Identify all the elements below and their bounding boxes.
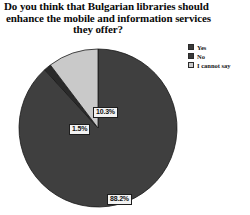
legend-item-cannot-say[interactable]: I cannot say	[188, 61, 248, 69]
data-label-no: 1.5%	[69, 124, 90, 135]
legend-label-no: No	[197, 53, 205, 60]
pie-svg	[18, 48, 178, 208]
pie-chart-screenshot: Do you think that Bulgarian libraries sh…	[0, 0, 250, 215]
legend-label-cannot-say: I cannot say	[197, 62, 231, 69]
chart-title-line-3: they offer?	[0, 24, 196, 36]
pie-plot-area: 10.3% 1.5% 88.2%	[18, 48, 178, 208]
legend-swatch-no-icon	[188, 53, 194, 59]
legend-swatch-cannot-say-icon	[188, 62, 194, 68]
chart-title: Do you think that Bulgarian libraries sh…	[0, 1, 196, 36]
legend-swatch-yes-icon	[188, 44, 194, 50]
pie-slice-group	[19, 49, 177, 207]
legend-label-yes: Yes	[197, 44, 206, 51]
chart-title-line-1: Do you think that Bulgarian libraries sh…	[0, 1, 196, 13]
legend-item-no[interactable]: No	[188, 52, 248, 60]
legend-item-yes[interactable]: Yes	[188, 43, 248, 51]
data-label-yes: 88.2%	[107, 194, 132, 205]
data-label-cannot-say: 10.3%	[93, 107, 118, 118]
chart-legend: Yes No I cannot say	[188, 43, 248, 70]
